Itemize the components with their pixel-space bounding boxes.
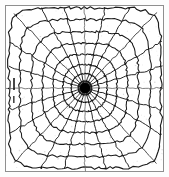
grain-speck	[137, 142, 138, 143]
grid-node	[27, 147, 29, 149]
grain-speck	[123, 47, 124, 48]
grid-node	[78, 110, 80, 112]
grid-node	[138, 87, 139, 88]
radial-grid-svg	[0, 0, 169, 177]
grain-speck	[114, 135, 115, 136]
grain-speck	[46, 117, 47, 118]
grid-node	[71, 87, 72, 88]
grain-speck	[36, 129, 37, 130]
grid-node	[96, 66, 97, 67]
grid-node	[42, 100, 43, 101]
grain-speck	[108, 110, 109, 111]
grid-node	[115, 33, 116, 34]
grid-node	[39, 41, 40, 42]
grain-speck	[54, 96, 55, 98]
grain-speck	[98, 166, 99, 168]
grid-node	[137, 119, 138, 120]
grain-speck	[135, 65, 137, 66]
grain-speck	[149, 31, 150, 32]
grid-node	[74, 77, 75, 78]
grid-node	[54, 106, 55, 107]
grid-node	[91, 75, 93, 77]
grain-speck	[51, 100, 52, 101]
ink-blot-2	[13, 96, 15, 103]
grain-speck	[10, 100, 12, 101]
grain-speck	[44, 151, 45, 152]
grid-node	[114, 105, 116, 107]
grid-node	[64, 7, 65, 8]
grain-speck	[21, 144, 22, 145]
grid-node	[20, 48, 22, 50]
grain-speck	[94, 109, 95, 110]
grain-speck	[33, 125, 34, 126]
grain-speck	[83, 118, 84, 119]
grain-speck	[53, 141, 54, 142]
grain-speck	[95, 154, 96, 155]
grain-speck	[163, 51, 164, 52]
grid-node	[60, 113, 61, 114]
grid-node	[101, 56, 103, 58]
grain-speck	[117, 167, 118, 168]
grain-speck	[43, 133, 44, 134]
grid-node	[81, 101, 82, 102]
grain-speck	[92, 157, 93, 159]
grid-node	[95, 132, 97, 134]
grid-node	[68, 70, 69, 71]
grid-node	[125, 112, 126, 113]
grain-speck	[47, 36, 48, 37]
grain-speck	[67, 108, 69, 109]
grain-speck	[158, 55, 159, 56]
grid-node	[54, 33, 55, 34]
grain-speck	[124, 61, 125, 62]
grain-speck	[144, 116, 145, 117]
grid-node	[115, 142, 116, 143]
grain-speck	[71, 126, 72, 127]
grain-speck	[65, 69, 66, 70]
grain-speck	[83, 20, 84, 21]
grid-node	[115, 96, 117, 98]
grid-node	[16, 15, 18, 17]
grid-node	[31, 103, 32, 104]
grain-speck	[16, 167, 17, 168]
grid-node	[68, 105, 69, 106]
grid-node	[78, 74, 80, 76]
grid-node	[104, 167, 106, 169]
grain-speck	[156, 51, 157, 52]
grid-node	[97, 80, 98, 81]
grain-speck	[114, 89, 116, 90]
grid-node	[101, 105, 102, 106]
grain-speck	[53, 92, 54, 93]
grid-node	[76, 120, 77, 121]
grain-speck	[117, 151, 118, 153]
grid-node	[90, 64, 92, 66]
grain-speck	[107, 25, 108, 26]
grain-speck	[53, 149, 54, 150]
grid-node	[62, 94, 64, 96]
grain-speck	[106, 149, 107, 150]
grid-node	[138, 103, 139, 104]
grain-speck	[114, 39, 115, 40]
grid-node	[85, 102, 87, 104]
grid-node	[90, 111, 91, 112]
grid-node	[44, 112, 45, 113]
grain-speck	[67, 141, 68, 142]
grid-node	[99, 143, 100, 144]
grain-speck	[126, 46, 127, 47]
grid-node	[106, 93, 108, 95]
grain-speck	[66, 66, 67, 67]
grain-speck	[46, 108, 47, 109]
grid-node	[67, 56, 68, 57]
grain-speck	[81, 46, 82, 47]
grain-speck	[93, 167, 94, 168]
grid-node	[72, 66, 74, 68]
grain-speck	[137, 161, 138, 162]
grain-speck	[103, 162, 104, 163]
grain-speck	[47, 65, 49, 66]
grain-speck	[61, 152, 62, 153]
grain-speck	[146, 119, 147, 121]
grain-speck	[125, 70, 126, 71]
grain-speck	[63, 45, 64, 47]
grain-speck	[94, 116, 95, 117]
grain-speck	[132, 94, 133, 95]
grain-speck	[78, 19, 79, 20]
